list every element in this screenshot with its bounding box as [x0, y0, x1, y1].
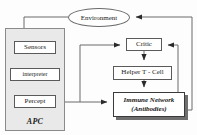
node-percept[interactable]: Percept	[14, 95, 56, 108]
node-interpreter[interactable]: interpreter	[10, 68, 60, 81]
node-helper-t-cell[interactable]: Helper T - Cell	[113, 66, 172, 80]
node-environment[interactable]: Environment	[68, 8, 130, 27]
immune-agent-diagram: APC Sensors interpreter Percept Critic H…	[0, 0, 197, 135]
node-critic[interactable]: Critic	[126, 38, 162, 51]
immune-network-line-1: Immune Network	[124, 96, 175, 104]
immune-network-line-2: (Antibodies)	[131, 105, 166, 113]
node-sensors[interactable]: Sensors	[14, 41, 56, 54]
apc-label: APC	[5, 117, 65, 126]
node-immune-network[interactable]: Immune Network (Antibodies)	[113, 92, 185, 117]
